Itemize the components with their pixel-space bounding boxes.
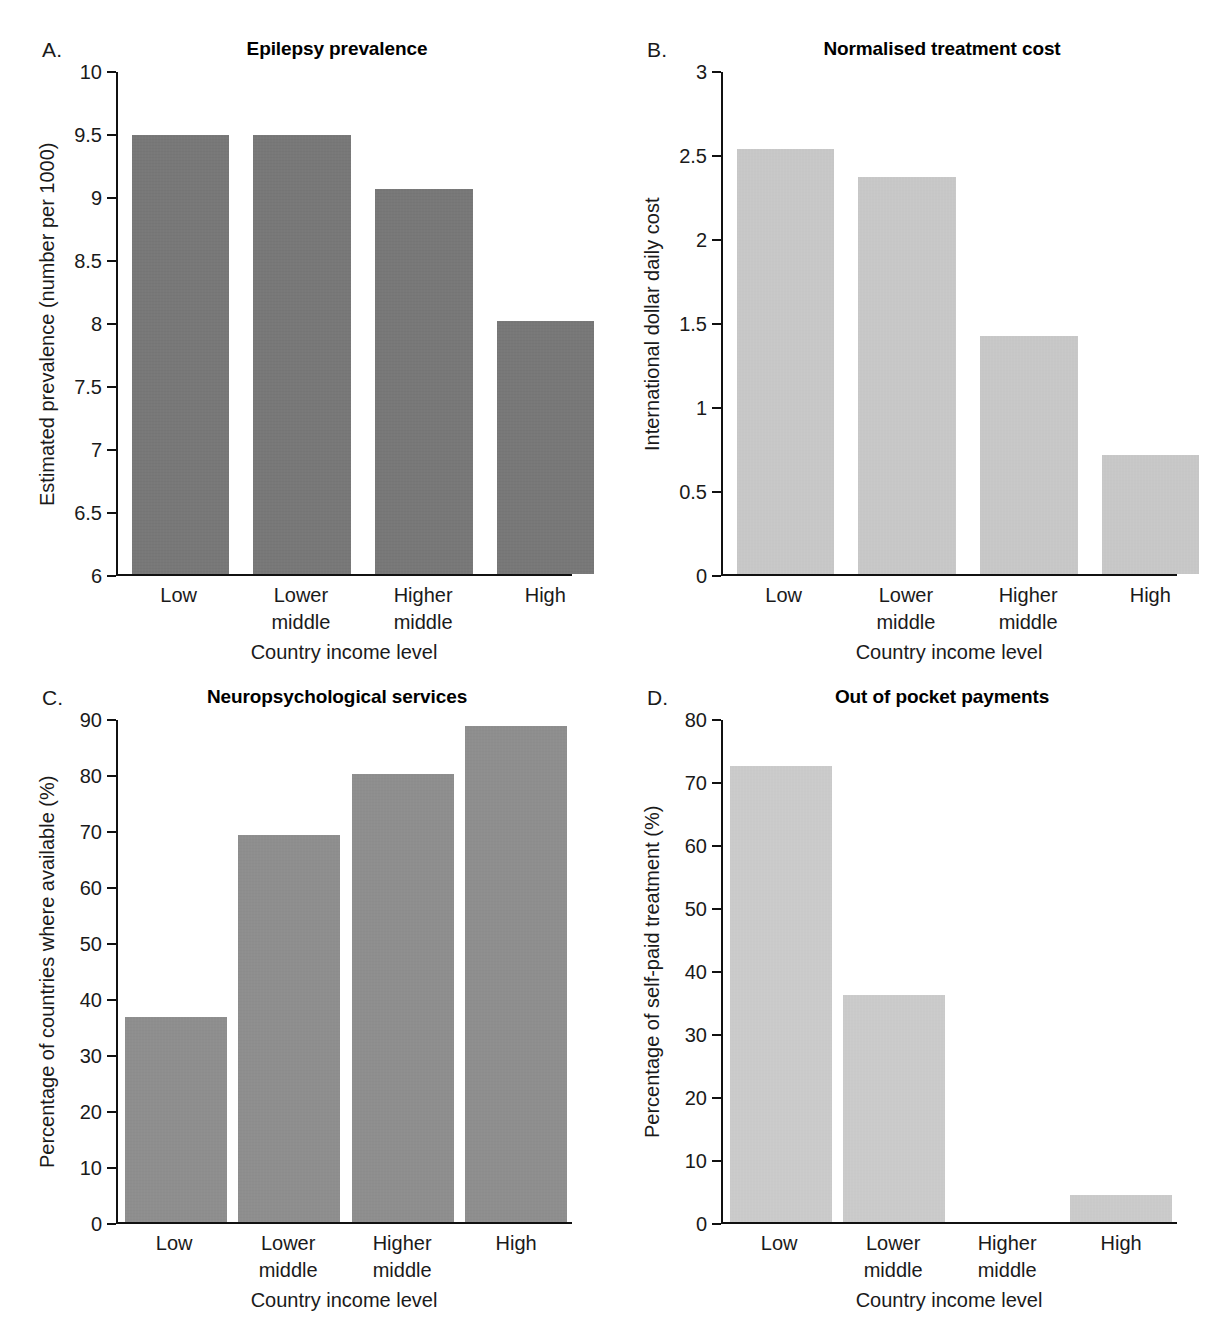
y-tick-label-d: 50 [685,898,707,921]
y-axis-title-a: Estimated prevalence (number per 1000) [36,142,59,506]
y-tick-label-d: 10 [685,1150,707,1173]
y-tick-label-c: 30 [80,1045,102,1068]
y-tick-b [712,323,721,325]
bar-a-2 [375,189,473,574]
y-tick-b [712,575,721,577]
panel-letter-a: A. [42,38,62,62]
bar-a-3 [497,321,595,575]
bar-d-1 [843,995,945,1222]
y-tick-d [712,908,721,910]
y-tick-label-c: 10 [80,1157,102,1180]
y-tick-label-a: 6 [91,565,102,588]
x-tick-label-b-1: Lowermiddle [842,582,970,636]
y-tick-label-a: 8.5 [74,250,102,273]
panel-title-d: Out of pocket payments [695,686,1189,708]
y-tick-label-c: 70 [80,821,102,844]
y-tick-label-b: 2 [696,229,707,252]
y-tick-label-d: 60 [685,835,707,858]
y-tick-label-c: 50 [80,933,102,956]
x-axis-title-d: Country income level [721,1289,1177,1312]
bar-c-1 [238,835,340,1222]
bar-b-3 [1102,455,1200,574]
y-tick-a [107,512,116,514]
panel-a: A. Epilepsy prevalence Estimated prevale… [0,0,604,669]
y-tick-label-a: 9.5 [74,124,102,147]
x-tick-label-c-3: High [452,1230,580,1257]
bar-group-d [723,720,1177,1222]
panel-c: C. Neuropsychological services Percentag… [0,648,604,1317]
bar-group-c [118,720,572,1222]
x-tick-label-c-0: Low [110,1230,238,1257]
y-tick-d [712,971,721,973]
y-tick-label-b: 1 [696,397,707,420]
x-axis-line-d [721,1222,1177,1224]
bar-b-1 [858,177,956,574]
y-tick-label-a: 10 [80,61,102,84]
bar-b-0 [737,149,835,574]
x-axis-labels-c: LowLowermiddleHighermiddleHigh [116,1230,572,1292]
y-tick-label-d: 20 [685,1087,707,1110]
y-tick-c [107,719,116,721]
y-tick-label-a: 6.5 [74,502,102,525]
panel-b: B. Normalised treatment cost Internation… [605,0,1209,669]
x-axis-line-b [721,574,1177,576]
panel-title-b: Normalised treatment cost [695,38,1189,60]
y-tick-label-a: 7.5 [74,376,102,399]
y-tick-c [107,775,116,777]
x-axis-line-a [116,574,572,576]
x-axis-labels-b: LowLowermiddleHighermiddleHigh [721,582,1177,644]
y-tick-label-d: 70 [685,772,707,795]
plot-area-b: 00.511.522.53 [721,72,1177,576]
bar-a-1 [253,135,351,574]
y-tick-a [107,575,116,577]
y-tick-d [712,845,721,847]
y-tick-label-a: 7 [91,439,102,462]
y-tick-label-b: 2.5 [679,145,707,168]
y-tick-label-c: 60 [80,877,102,900]
y-tick-label-a: 9 [91,187,102,210]
panel-letter-d: D. [647,686,668,710]
y-tick-a [107,260,116,262]
y-tick-b [712,239,721,241]
x-tick-label-d-0: Low [715,1230,843,1257]
y-tick-a [107,197,116,199]
y-tick-c [107,1167,116,1169]
panel-letter-b: B. [647,38,667,62]
bar-b-2 [980,336,1078,574]
bar-group-a [118,72,572,574]
x-tick-label-a-0: Low [115,582,243,609]
y-tick-d [712,1034,721,1036]
y-tick-label-b: 0 [696,565,707,588]
x-tick-label-b-2: Highermiddle [964,582,1092,636]
plot-area-c: 0102030405060708090 [116,720,572,1224]
y-tick-label-d: 0 [696,1213,707,1236]
y-tick-b [712,407,721,409]
y-tick-a [107,134,116,136]
y-tick-a [107,386,116,388]
x-tick-label-d-1: Lowermiddle [829,1230,957,1284]
panel-title-c: Neuropsychological services [90,686,584,708]
y-tick-a [107,323,116,325]
x-tick-label-c-1: Lowermiddle [224,1230,352,1284]
y-tick-c [107,831,116,833]
panel-title-a: Epilepsy prevalence [90,38,584,60]
x-tick-label-c-2: Highermiddle [338,1230,466,1284]
y-tick-label-a: 8 [91,313,102,336]
x-tick-label-b-3: High [1086,582,1209,609]
plot-area-d: 01020304050607080 [721,720,1177,1224]
y-tick-c [107,943,116,945]
x-tick-label-a-3: High [481,582,609,609]
y-tick-b [712,155,721,157]
y-tick-c [107,1111,116,1113]
bar-c-3 [465,726,567,1222]
y-tick-label-c: 20 [80,1101,102,1124]
figure-panel-grid: A. Epilepsy prevalence Estimated prevale… [0,0,1209,1338]
panel-d: D. Out of pocket payments Percentage of … [605,648,1209,1317]
y-tick-label-c: 90 [80,709,102,732]
x-tick-label-a-2: Highermiddle [359,582,487,636]
y-tick-c [107,1055,116,1057]
x-tick-label-a-1: Lowermiddle [237,582,365,636]
y-tick-d [712,1097,721,1099]
y-tick-label-b: 1.5 [679,313,707,336]
y-tick-c [107,999,116,1001]
